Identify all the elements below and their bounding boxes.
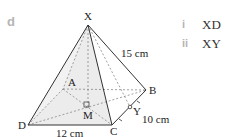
label-d: D — [18, 119, 26, 131]
measure-xb: 15 cm — [121, 47, 149, 59]
label-m: M — [83, 109, 93, 121]
label-a: A — [68, 76, 76, 88]
measure-cb: 10 cm — [142, 113, 170, 125]
question-text: XY — [202, 36, 221, 52]
point-y-marker — [128, 105, 132, 109]
measure-dc: 12 cm — [56, 127, 84, 137]
question-number: ii — [182, 37, 188, 49]
label-b: B — [149, 84, 156, 96]
label-c: C — [110, 125, 117, 137]
label-y: Y — [133, 105, 141, 117]
question-number: i — [182, 18, 185, 30]
label-x: X — [84, 10, 92, 22]
question-text: XD — [202, 17, 221, 33]
pyramid-diagram: X A B C D M Y 15 cm 12 cm 10 cm — [0, 0, 230, 137]
